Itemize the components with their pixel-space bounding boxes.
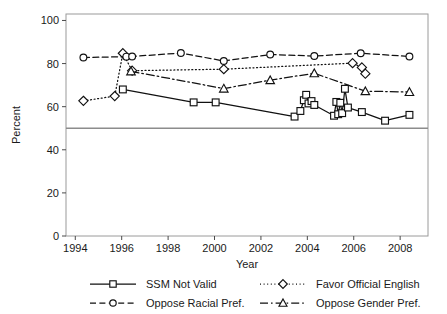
y-axis-title: Percent	[10, 106, 22, 144]
data-point-marker	[190, 99, 197, 106]
x-tick-label-1994: 1994	[63, 242, 87, 254]
y-tick-label-100: 100	[41, 14, 59, 26]
data-point-marker	[382, 117, 389, 124]
x-tick-label-2004: 2004	[295, 242, 319, 254]
data-point-marker	[79, 96, 88, 105]
legend-label: Oppose Gender Pref.	[316, 297, 421, 309]
data-point-marker	[342, 85, 349, 92]
data-point-marker	[310, 69, 319, 77]
data-point-marker	[406, 53, 413, 60]
data-point-marker	[348, 59, 357, 68]
legend-item-favor-official-english[interactable]: Favor Official English	[260, 278, 420, 290]
data-point-marker	[219, 65, 228, 74]
series-oppose-racial-pref	[80, 50, 413, 65]
data-point-marker	[110, 92, 119, 101]
series-oppose-gender-pref	[127, 67, 414, 95]
data-point-marker	[177, 50, 184, 57]
data-point-marker	[311, 53, 318, 60]
data-point-marker	[345, 104, 352, 111]
data-point-marker	[129, 53, 136, 60]
y-tick-label-20: 20	[47, 187, 59, 199]
series-ssm-not-valid	[119, 85, 412, 124]
legend-label: Oppose Racial Pref.	[146, 297, 244, 309]
data-point-marker	[357, 50, 364, 57]
line-chart: 0204060801001994199619982000200220042006…	[0, 0, 447, 314]
legend-label: SSM Not Valid	[146, 278, 217, 290]
x-tick-label-2008: 2008	[388, 242, 412, 254]
data-point-marker	[311, 102, 318, 109]
legend-label: Favor Official English	[316, 278, 420, 290]
y-tick-label-60: 60	[47, 101, 59, 113]
chart-legend: SSM Not ValidFavor Official EnglishOppos…	[90, 278, 421, 309]
data-point-marker	[297, 108, 304, 115]
data-point-marker	[337, 99, 344, 106]
data-point-marker	[110, 281, 116, 287]
x-axis-title: Year	[236, 258, 259, 270]
x-tick-label-1998: 1998	[156, 242, 180, 254]
data-point-marker	[279, 280, 288, 289]
plot-frame	[66, 14, 428, 236]
y-tick-label-80: 80	[47, 58, 59, 70]
y-tick-label-0: 0	[53, 230, 59, 242]
data-point-marker	[80, 54, 87, 61]
data-point-marker	[220, 58, 227, 65]
y-tick-label-40: 40	[47, 144, 59, 156]
data-point-marker	[358, 109, 365, 116]
data-point-marker	[361, 87, 370, 95]
x-tick-label-2006: 2006	[342, 242, 366, 254]
x-tick-label-2002: 2002	[249, 242, 273, 254]
data-point-marker	[110, 300, 116, 306]
chart-container: 0204060801001994199619982000200220042006…	[0, 0, 447, 314]
legend-item-oppose-gender-pref[interactable]: Oppose Gender Pref.	[260, 297, 421, 309]
x-tick-label-1996: 1996	[109, 242, 133, 254]
x-tick-label-2000: 2000	[202, 242, 226, 254]
data-point-marker	[119, 86, 126, 93]
legend-item-ssm-not-valid[interactable]: SSM Not Valid	[90, 278, 217, 290]
legend-item-oppose-racial-pref[interactable]: Oppose Racial Pref.	[90, 297, 244, 309]
data-point-marker	[267, 51, 274, 58]
data-point-marker	[406, 111, 413, 118]
data-point-marker	[212, 99, 219, 106]
